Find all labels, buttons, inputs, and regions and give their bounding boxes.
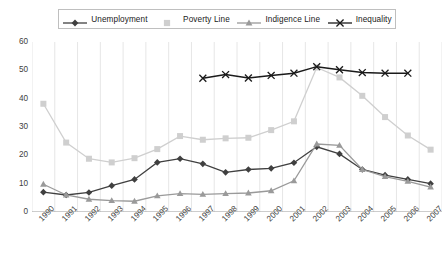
legend-marker-square-icon — [154, 14, 180, 24]
data-point — [268, 165, 275, 172]
data-point — [40, 101, 46, 107]
legend-marker-triangle-icon — [236, 14, 262, 24]
data-point — [359, 93, 365, 99]
data-point — [245, 135, 251, 141]
data-point — [177, 155, 184, 162]
data-point — [428, 147, 434, 153]
data-point — [132, 155, 138, 161]
data-point — [200, 161, 207, 168]
legend-item-label: Poverty Line — [183, 15, 230, 24]
legend-marker-diamond-icon — [62, 14, 88, 24]
y-axis-tick-label: 20 — [6, 150, 28, 159]
vertical-gridlines — [32, 42, 442, 212]
y-axis-tick-label: 30 — [6, 122, 28, 131]
data-point — [109, 159, 115, 165]
plot-area — [32, 42, 442, 212]
data-point — [291, 118, 297, 124]
legend-item-poverty-line[interactable]: Poverty Line — [154, 14, 230, 24]
data-point — [86, 156, 92, 162]
data-point — [200, 137, 206, 143]
legend-item-label: Inequality — [356, 15, 392, 24]
data-point — [223, 135, 229, 141]
y-axis-tick-label: 0 — [6, 207, 28, 216]
data-point — [405, 133, 411, 139]
data-point — [40, 181, 47, 187]
y-axis-tick-label: 10 — [6, 179, 28, 188]
data-point — [86, 189, 93, 196]
data-point — [108, 182, 115, 189]
data-point — [268, 127, 274, 133]
data-point — [313, 141, 320, 147]
legend-item-inequality[interactable]: Inequality — [327, 14, 392, 24]
y-axis-tick-label: 60 — [6, 37, 28, 46]
y-axis-tick-label: 50 — [6, 65, 28, 74]
data-point — [40, 189, 47, 196]
legend-item-label: Unemployment — [91, 15, 147, 24]
legend-item-label: Indigence Line — [265, 15, 320, 24]
data-point — [337, 74, 343, 80]
data-point — [382, 114, 388, 120]
data-point — [154, 146, 160, 152]
data-point — [177, 133, 183, 139]
chart-legend: UnemploymentPoverty LineIndigence LineIn… — [58, 9, 396, 29]
chart-svg — [32, 42, 442, 212]
data-point — [63, 140, 69, 146]
y-axis-tick-label: 40 — [6, 94, 28, 103]
data-point — [222, 169, 229, 176]
legend-item-unemployment[interactable]: Unemployment — [62, 14, 147, 24]
data-point — [245, 166, 252, 173]
chart-container: UnemploymentPoverty LineIndigence LineIn… — [0, 0, 448, 257]
legend-item-indigence-line[interactable]: Indigence Line — [236, 14, 320, 24]
legend-marker-cross-icon — [327, 14, 353, 24]
